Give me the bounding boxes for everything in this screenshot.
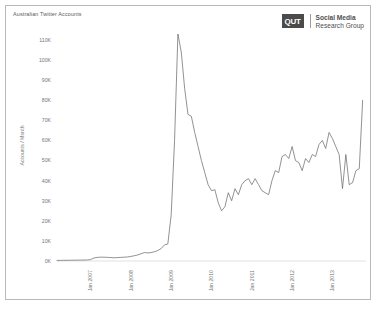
y-tick-label: 40K (42, 178, 52, 184)
y-tick-label: 20K (42, 218, 52, 224)
y-tick-label: 10K (42, 238, 52, 244)
y-tick-label: 90K (42, 77, 52, 83)
plot-area: 0K10K20K30K40K50K60K70K80K90K100K110K Ja… (0, 0, 378, 313)
x-tick-label: Jan 2008 (128, 270, 134, 291)
y-axis-title: Accounts / Month (19, 125, 25, 165)
x-tick-label: Jan 2009 (168, 270, 174, 291)
y-axis-title-text: Accounts / Month (19, 125, 25, 165)
y-tick-label: 100K (39, 57, 52, 63)
x-axis-ticks: Jan 2007Jan 2008Jan 2009Jan 2010Jan 2011… (87, 270, 335, 291)
y-tick-label: 80K (42, 97, 52, 103)
x-tick-label: Jan 2013 (329, 270, 335, 291)
y-tick-label: 110K (39, 37, 51, 43)
y-tick-label: 0K (45, 258, 52, 264)
y-tick-label: 30K (42, 198, 52, 204)
x-tick-label: Jan 2007 (87, 270, 93, 291)
data-series (57, 34, 363, 260)
x-tick-label: Jan 2010 (208, 270, 214, 291)
x-tick-label: Jan 2011 (249, 270, 255, 291)
y-axis-ticks: 0K10K20K30K40K50K60K70K80K90K100K110K (39, 37, 52, 264)
y-tick-label: 50K (42, 157, 52, 163)
x-tick-label: Jan 2012 (289, 270, 295, 291)
y-tick-label: 70K (42, 117, 52, 123)
chart-figure: Australian Twitter Accounts QUT Social M… (0, 0, 378, 313)
series-line (57, 34, 363, 260)
y-tick-label: 60K (42, 137, 52, 143)
